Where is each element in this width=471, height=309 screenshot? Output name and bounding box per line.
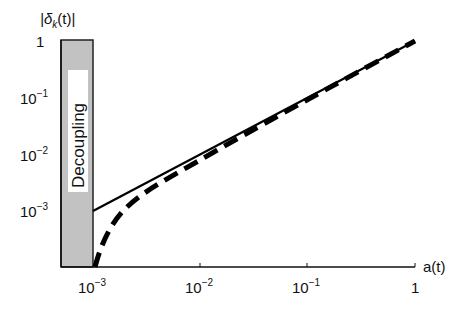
- y-tick-1: 1: [36, 33, 44, 50]
- y-tick-1e-2: 10−2: [20, 145, 49, 164]
- x-tick-1e-2: 10−2: [185, 277, 214, 296]
- y-tick-1e-3: 10−3: [20, 201, 49, 220]
- x-axis-label: a(t): [423, 258, 446, 275]
- x-tick-1e-3: 10−3: [78, 277, 107, 296]
- dashed-series-line: [95, 41, 415, 267]
- y-axis-label: |δk(t)|: [40, 10, 75, 30]
- decoupling-label-group: Decoupling: [68, 70, 88, 192]
- y-tick-1e-1: 10−1: [20, 88, 49, 107]
- chart: Decoupling 1 10−1 10−2 10−3 10−3 10−2 10…: [0, 0, 471, 309]
- decoupling-label: Decoupling: [69, 103, 88, 188]
- x-tick-1e-1: 10−1: [292, 277, 321, 296]
- x-tick-1: 1: [411, 279, 419, 296]
